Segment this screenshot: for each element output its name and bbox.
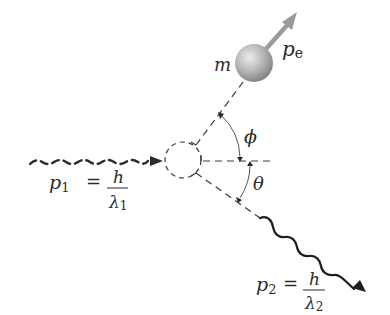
svg-text:p2: p2 bbox=[256, 273, 276, 297]
phi-label: ϕ bbox=[244, 125, 257, 147]
scattered-photon-path bbox=[196, 173, 260, 218]
incident-arrowhead-icon bbox=[150, 156, 163, 166]
scattered-arrowhead-icon bbox=[352, 280, 366, 292]
svg-text:=: = bbox=[283, 273, 298, 294]
svg-text:=: = bbox=[86, 171, 101, 192]
theta-label: θ bbox=[253, 173, 264, 194]
svg-text:h: h bbox=[309, 269, 320, 289]
electron-mass-label: m bbox=[214, 54, 231, 75]
compton-scattering-diagram: m pe ϕ θ p1 = h λ1 p2 = h λ2 bbox=[0, 0, 390, 315]
svg-text:h: h bbox=[113, 167, 124, 187]
incident-photon-momentum-formula: p1 = h λ1 bbox=[49, 167, 128, 213]
theta-angle-arc bbox=[236, 161, 253, 203]
phi-angle-arc bbox=[218, 112, 243, 162]
electron-sphere bbox=[235, 44, 273, 82]
svg-text:λ2: λ2 bbox=[304, 293, 323, 314]
svg-text:p1: p1 bbox=[49, 171, 69, 195]
svg-text:λ1: λ1 bbox=[108, 192, 127, 213]
incident-photon-wave bbox=[30, 156, 163, 166]
scattered-photon-momentum-formula: p2 = h λ2 bbox=[256, 269, 325, 314]
electron-momentum-label: pe bbox=[282, 37, 303, 61]
